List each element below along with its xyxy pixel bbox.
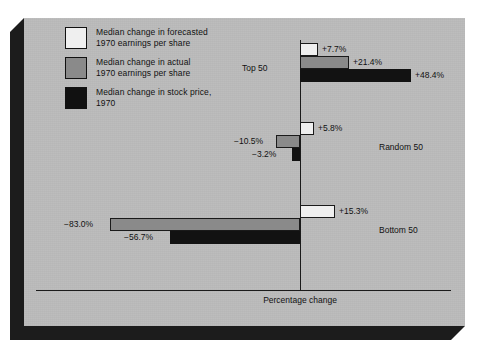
group-label-random50: Random 50 (379, 141, 423, 154)
bar-random50-actual (276, 135, 300, 148)
bar-label-top50-actual: +21.4% (353, 56, 382, 69)
bar-label-random50-actual: −10.5% (234, 135, 263, 148)
bar-top50-actual (300, 56, 349, 69)
bar-random50-stock (292, 148, 300, 161)
bar-label-random50-forecast: +5.8% (318, 122, 342, 135)
bar-top50-forecast (300, 43, 318, 56)
bar-bottom50-forecast (300, 205, 335, 218)
bar-label-random50-stock: −3.2% (252, 148, 276, 161)
bar-label-bottom50-actual: −83.0% (64, 218, 93, 231)
bar-label-bottom50-forecast: +15.3% (339, 205, 368, 218)
bar-label-top50-stock: +48.4% (415, 69, 444, 82)
plot-area: Percentage change Top 50 +7.7% +21.4% +4… (24, 18, 465, 326)
bar-label-bottom50-stock: −56.7% (124, 231, 153, 244)
x-axis-label: Percentage change (263, 295, 337, 305)
group-label-bottom50: Bottom 50 (379, 224, 418, 237)
bar-label-top50-forecast: +7.7% (322, 43, 346, 56)
bar-random50-forecast (300, 122, 314, 135)
bar-bottom50-stock (170, 231, 300, 244)
chart-panel: Median change in forecasted 1970 earning… (24, 18, 465, 326)
axis-baseline (36, 290, 451, 291)
group-label-top50: Top 50 (242, 62, 268, 75)
bar-top50-stock (300, 69, 411, 82)
chart-figure: Median change in forecasted 1970 earning… (0, 0, 481, 350)
bar-bottom50-actual (110, 218, 300, 231)
